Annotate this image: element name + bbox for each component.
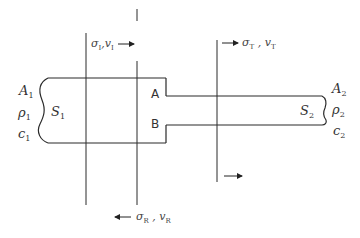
transmitted-wave-label: σT , vT — [242, 37, 276, 51]
transmitted-separator: , — [254, 36, 261, 49]
rod-2-area-symbol: A — [332, 81, 341, 96]
rod-1-density-subscript: 1 — [26, 113, 31, 122]
reflected-wave-label: σR , vR — [136, 211, 171, 225]
rod-1-density-symbol: ρ — [18, 105, 26, 120]
reflected-stress-symbol: σ — [136, 210, 144, 223]
rod-2-area-subscript: 2 — [341, 89, 346, 98]
wave-arrows — [115, 43, 242, 217]
rod-2-density-label: ρ2 — [332, 103, 345, 119]
rod-1-density-label: ρ1 — [18, 106, 31, 122]
rod-1-wave-speed-label: c1 — [18, 127, 30, 143]
reflected-separator: , — [149, 210, 156, 223]
rod-1-area-symbol: A — [19, 83, 28, 98]
interface-point-b: B — [151, 118, 159, 130]
rod-2-wave-speed-subscript: 2 — [340, 131, 345, 140]
rod-2-density-symbol: ρ — [332, 102, 340, 117]
rod-1-section-label: S1 — [51, 105, 65, 121]
rod-2-wave-speed-label: c2 — [333, 124, 345, 140]
rod-2-section-subscript: 2 — [309, 111, 314, 120]
rod-1-wave-speed-subscript: 1 — [25, 134, 30, 143]
reflected-velocity-subscript: R — [166, 217, 171, 225]
rod-2-section-label: S2 — [300, 104, 314, 120]
incident-wave-label: σI,vI — [91, 38, 114, 52]
rod-2-density-subscript: 2 — [340, 110, 345, 119]
incident-stress-symbol: σ — [91, 37, 99, 50]
rod-1-section-symbol: S — [51, 104, 60, 119]
rod-2-area-label: A2 — [332, 82, 346, 98]
rod-2-section-symbol: S — [300, 103, 309, 118]
interface-point-a: A — [151, 88, 159, 100]
incident-velocity-subscript: I — [111, 44, 114, 52]
rod-1-section-subscript: 1 — [60, 112, 65, 121]
transmitted-stress-symbol: σ — [242, 36, 250, 49]
rod-1-area-label: A1 — [19, 84, 33, 100]
rod-1-wavy-cut — [38, 78, 48, 143]
transmitted-velocity-subscript: T — [271, 43, 276, 51]
rod-1-area-subscript: 1 — [28, 91, 33, 100]
rod-2-wavy-cut — [322, 96, 326, 125]
